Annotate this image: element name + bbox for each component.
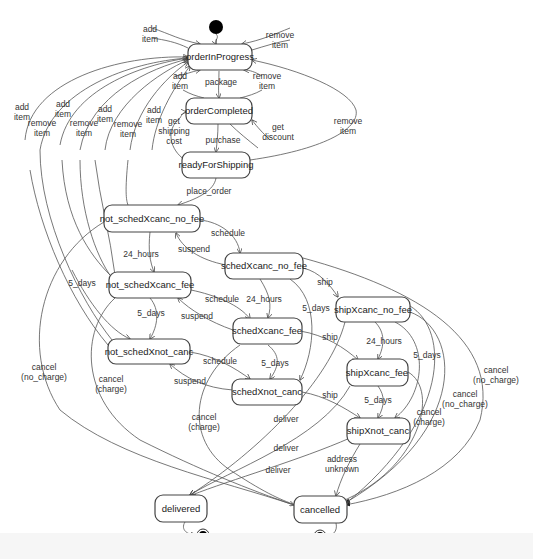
label-ship-2: ship (322, 332, 338, 342)
svg-text:delivered: delivered (162, 503, 201, 514)
edge-initial (216, 34, 218, 44)
state-diagram: orderInProgress orderCompleted readyForS… (0, 0, 533, 559)
label-add-item-oc: additem (172, 71, 188, 91)
label-add-item-2: additem (55, 99, 71, 119)
state-cancelled: cancelled (294, 496, 347, 523)
label-purchase: purchase (206, 135, 241, 145)
label-cancel-charge-mid: cancel(charge) (188, 412, 220, 432)
label-suspend-1: suspend (178, 244, 210, 254)
label-cancel-charge-right: cancel(charge) (413, 407, 445, 427)
label-5-days-6: 5_days (364, 395, 391, 405)
state-schedXcanc_fee: schedXcanc_fee (232, 318, 302, 344)
label-add-item-3: additem (97, 104, 113, 124)
label-deliver-2: deliver (273, 443, 298, 453)
label-ship-3: ship (322, 390, 338, 400)
state-shipXcanc_fee: shipXcanc_fee (346, 359, 408, 386)
state-shipXnot_canc: shipXnot_canc (347, 418, 410, 444)
label-5-days-5: 5_days (413, 350, 440, 360)
svg-text:not_schedXcanc_fee: not_schedXcanc_fee (106, 279, 195, 290)
label-cancel-no-charge-left: cancel(no_charge) (21, 362, 67, 382)
label-5-days-2: 5_days (137, 308, 164, 318)
state-not_schedXcanc_fee: not_schedXcanc_fee (106, 272, 195, 298)
svg-text:not_schedXnot_canc: not_schedXnot_canc (105, 346, 194, 357)
label-remove-item-oc: removeitem (253, 71, 282, 91)
label-get-discount: getdiscount (262, 122, 294, 142)
label-cancel-charge-left: cancel(charge) (95, 374, 127, 394)
bottom-strip (0, 533, 533, 559)
label-remove-item-top: removeitem (266, 30, 295, 50)
label-5-days-left: 5_days (68, 278, 95, 288)
state-schedXnot_canc: schedXnot_canc (232, 379, 302, 405)
state-readyForShipping: readyForShipping (179, 152, 254, 178)
label-get-shipping-cost: getshippingcost (158, 116, 190, 146)
label-package: package (205, 77, 237, 87)
label-schedule-1: schedule (211, 228, 245, 238)
svg-text:shipXcanc_fee: shipXcanc_fee (346, 367, 408, 378)
label-deliver-1: deliver (273, 414, 298, 424)
svg-text:schedXcanc_no_fee: schedXcanc_no_fee (221, 260, 307, 271)
label-cancel-no-charge-r2: cancel(no_charge) (473, 365, 519, 385)
state-not_schedXcanc_no_fee: not_schedXcanc_no_fee (100, 205, 205, 232)
label-remove-item-rfs: removeitem (334, 116, 363, 136)
state-shipXcanc_no_fee: shipXcanc_no_fee (334, 297, 412, 322)
svg-text:orderInProgress: orderInProgress (186, 51, 254, 62)
label-24-hours-1: 24_hours (123, 249, 158, 259)
label-add-item-top: additem (142, 24, 158, 44)
label-address-unknown: addressunknown (325, 454, 359, 474)
label-remove-item-1: removeitem (28, 118, 57, 138)
state-delivered: delivered (155, 495, 207, 522)
state-orderCompleted: orderCompleted (185, 98, 253, 124)
initial-state (209, 20, 223, 34)
state-not_schedXnot_canc: not_schedXnot_canc (105, 339, 194, 364)
label-ship-1: ship (317, 277, 333, 287)
svg-text:readyForShipping: readyForShipping (179, 159, 254, 170)
label-remove-item-2: removeitem (70, 118, 99, 138)
svg-text:schedXnot_canc: schedXnot_canc (232, 386, 302, 397)
label-24-hours-3: 24_hours (366, 336, 401, 346)
label-schedule-2: schedule (205, 294, 239, 304)
transition-labels: additem removeitem additem package remov… (14, 24, 519, 475)
label-add-item-4: additem (146, 105, 162, 125)
label-5-days-4: 5_days (261, 358, 288, 368)
svg-text:orderCompleted: orderCompleted (185, 105, 253, 116)
svg-text:shipXcanc_no_fee: shipXcanc_no_fee (334, 304, 412, 315)
label-suspend-2: suspend (181, 311, 213, 321)
label-cancel-no-charge-r1: cancel(no_charge) (442, 389, 488, 409)
label-remove-item-3: removeitem (114, 119, 143, 139)
svg-text:shipXnot_canc: shipXnot_canc (347, 425, 410, 436)
svg-text:schedXcanc_fee: schedXcanc_fee (232, 325, 302, 336)
state-orderInProgress: orderInProgress (186, 44, 254, 70)
label-deliver-3: deliver (265, 465, 290, 475)
svg-text:cancelled: cancelled (300, 504, 340, 515)
label-5-days-3: 5_days (302, 303, 329, 313)
label-schedule-3: schedule (203, 356, 237, 366)
label-24-hours-2: 24_hours (246, 294, 281, 304)
label-place-order: place_order (187, 186, 232, 196)
state-schedXcanc_no_fee: schedXcanc_no_fee (221, 253, 307, 279)
svg-text:not_schedXcanc_no_fee: not_schedXcanc_no_fee (100, 213, 205, 224)
label-suspend-3: suspend (174, 376, 206, 386)
